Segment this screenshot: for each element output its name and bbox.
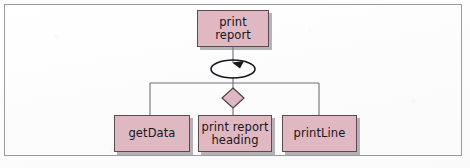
module-label-print-report: print report: [213, 16, 253, 42]
module-label-get-data: getData: [126, 127, 177, 140]
module-box-print-report[interactable]: print report: [197, 10, 269, 47]
module-box-print-line[interactable]: printLine: [282, 115, 357, 152]
module-box-print-report-heading[interactable]: print report heading: [198, 115, 272, 152]
module-label-print-line: printLine: [292, 127, 348, 140]
module-box-get-data[interactable]: getData: [114, 115, 190, 152]
structure-chart-figure: print report getData print report headin…: [0, 0, 470, 168]
module-label-print-report-heading: print report heading: [200, 121, 271, 147]
